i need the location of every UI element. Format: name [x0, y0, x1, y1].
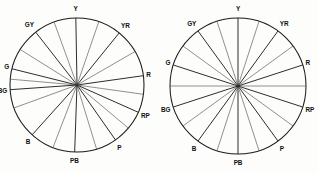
hue-spoke — [77, 52, 135, 86]
hue-label-b: B — [26, 138, 31, 145]
hue-spoke — [183, 86, 238, 126]
hue-label-yr: YR — [121, 22, 130, 29]
hue-spoke — [238, 46, 293, 86]
hue-spoke — [12, 69, 77, 85]
hue-spoke — [238, 65, 303, 86]
hue-spoke — [77, 22, 99, 85]
hue-label-p: P — [280, 145, 285, 152]
hue-label-r: R — [306, 59, 311, 66]
hue-spoke — [36, 32, 77, 85]
hue-spoke — [54, 22, 77, 85]
hue-spoke — [20, 49, 77, 85]
hue-label-p: P — [117, 144, 122, 151]
hue-label-pb: PB — [70, 157, 79, 164]
hue-spoke — [238, 86, 259, 151]
hue-spoke — [77, 85, 97, 149]
hue-label-g: G — [166, 59, 171, 66]
hue-spoke — [198, 31, 238, 86]
hue-spoke — [198, 86, 238, 141]
hue-spoke — [76, 18, 77, 85]
right-hue-circle-diagram: RYRYGYGBGBPBPRP — [159, 0, 318, 173]
hue-spoke — [53, 85, 77, 148]
hue-label-y: Y — [74, 5, 79, 12]
hue-spoke — [238, 21, 259, 86]
right-hue-circle-panel: RYRYGYGBGBPBPRP — [159, 0, 318, 173]
hue-spoke — [32, 85, 77, 135]
hue-spoke — [183, 46, 238, 86]
hue-spoke — [75, 85, 77, 152]
hue-spoke — [238, 86, 303, 107]
hue-label-gy: GY — [187, 20, 197, 27]
hue-spoke — [238, 86, 278, 141]
hue-spoke — [217, 86, 238, 151]
hue-spoke — [217, 21, 238, 86]
hue-label-bg: BG — [161, 106, 171, 113]
hue-label-gy: GY — [25, 21, 35, 28]
hue-label-y: Y — [236, 5, 241, 12]
hue-circle-figure: RYRYGYGBGBPBPRP RYRYGYGBGBPBPRP — [0, 0, 318, 173]
left-hue-circle-diagram: RYRYGYGBGBPBPRP — [0, 0, 159, 173]
hue-label-pb: PB — [234, 159, 243, 166]
hue-label-rp: RP — [306, 106, 316, 113]
hue-label-yr: YR — [280, 20, 289, 27]
hue-label-bg: BG — [0, 87, 7, 94]
hue-spoke — [173, 65, 238, 86]
hue-spoke — [77, 33, 119, 85]
hue-label-g: G — [4, 63, 9, 70]
hue-spoke — [173, 86, 238, 107]
left-hue-circle-panel: RYRYGYGBGBPBPRP — [0, 0, 159, 173]
hue-spoke — [238, 86, 293, 126]
hue-spoke — [238, 31, 278, 86]
hue-label-r: R — [146, 71, 151, 78]
hue-spoke — [77, 76, 143, 85]
hue-label-b: B — [192, 145, 197, 152]
hue-label-rp: RP — [141, 112, 151, 119]
